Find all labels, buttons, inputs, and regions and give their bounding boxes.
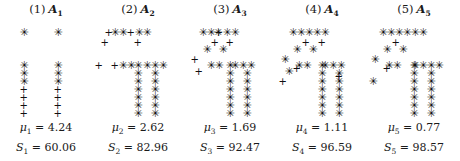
asterisk-marker: ✳ bbox=[383, 45, 390, 54]
asterisk-marker: ✳ bbox=[371, 55, 378, 64]
mu-stat-value: 1.69 bbox=[232, 121, 257, 134]
matrix-symbol: A bbox=[417, 2, 426, 16]
asterisk-marker: ✳ bbox=[20, 28, 27, 37]
mu-stat-value: 0.77 bbox=[416, 121, 441, 134]
asterisk-marker: ✳ bbox=[318, 109, 325, 118]
asterisk-marker: ✳ bbox=[321, 61, 328, 70]
asterisk-marker: ✳ bbox=[369, 77, 376, 86]
plus-marker: + bbox=[111, 61, 118, 70]
mu-stat: μ5 = 0.77 bbox=[368, 120, 460, 140]
s-stat-equals: = bbox=[120, 141, 136, 154]
plus-marker: + bbox=[226, 38, 233, 47]
plus-marker: + bbox=[302, 38, 309, 47]
s-stat-equals: = bbox=[28, 141, 44, 154]
asterisk-marker: ✳ bbox=[223, 28, 230, 37]
asterisk-marker: ✳ bbox=[243, 109, 250, 118]
mu-stat-equals: = bbox=[400, 121, 416, 134]
plus-marker: + bbox=[127, 28, 134, 37]
panel-matrix-label: A4 bbox=[325, 2, 339, 16]
panel-4: (4)A4✳✳✳✳✳✳✳✳✳✳✳✳✳✳✳✳✳✳✳✳✳✳✳✳✳✳✳+++++μ4 … bbox=[276, 0, 368, 161]
asterisk-marker: ✳ bbox=[134, 109, 141, 118]
asterisk-marker: ✳ bbox=[231, 61, 238, 70]
plus-marker: + bbox=[134, 38, 141, 47]
asterisk-marker: ✳ bbox=[293, 45, 300, 54]
mu-stat-value: 4.24 bbox=[48, 121, 73, 134]
asterisk-marker: ✳ bbox=[207, 28, 214, 37]
matrix-subscript: 1 bbox=[58, 9, 63, 18]
panel-index-label: (1) bbox=[29, 2, 45, 16]
scatter-plot-4: ✳✳✳✳✳✳✳✳✳✳✳✳✳✳✳✳✳✳✳✳✳✳✳✳✳✳✳+++++ bbox=[276, 26, 368, 116]
s-stat-value: 82.96 bbox=[137, 141, 169, 154]
asterisk-marker: ✳ bbox=[199, 28, 206, 37]
s-stat: S5 = 98.57 bbox=[368, 140, 460, 160]
s-stat-equals: = bbox=[304, 141, 320, 154]
panel-title-5: (5)A5 bbox=[368, 2, 460, 21]
s-stat: S3 = 92.47 bbox=[184, 140, 276, 160]
panel-stats-2: μ2 = 2.62S2 = 82.96 bbox=[92, 120, 184, 160]
asterisk-marker: ✳ bbox=[435, 61, 442, 70]
asterisk-marker: ✳ bbox=[54, 28, 61, 37]
panel-3: (3)A3✳✳✳✳✳✳✳✳✳✳✳✳✳✳✳✳✳✳✳✳✳✳✳✳✳+++++μ3 = … bbox=[184, 0, 276, 161]
s-stat-symbol: S bbox=[200, 141, 208, 154]
asterisk-marker: ✳ bbox=[387, 28, 394, 37]
s-stat: S1 = 60.06 bbox=[0, 140, 92, 160]
mu-stat: μ3 = 1.69 bbox=[184, 120, 276, 140]
scatter-plot-5: ✳✳✳✳✳✳✳✳✳✳✳✳✳✳✳✳✳✳✳✳✳✳✳✳✳✳✳✳✳++ bbox=[368, 26, 460, 116]
asterisk-marker: ✳ bbox=[410, 109, 417, 118]
panel-stats-5: μ5 = 0.77S5 = 98.57 bbox=[368, 120, 460, 160]
asterisk-marker: ✳ bbox=[321, 28, 328, 37]
matrix-symbol: A bbox=[49, 2, 58, 16]
panel-matrix-label: A1 bbox=[49, 2, 63, 16]
asterisk-marker: ✳ bbox=[379, 28, 386, 37]
panel-index-label: (2) bbox=[121, 2, 137, 16]
s-stat-value: 92.47 bbox=[229, 141, 261, 154]
asterisk-marker: ✳ bbox=[226, 109, 233, 118]
asterisk-marker: ✳ bbox=[135, 28, 142, 37]
plus-marker: + bbox=[20, 109, 27, 118]
panel-stats-1: μ1 = 4.24S1 = 60.06 bbox=[0, 120, 92, 160]
panel-matrix-label: A5 bbox=[417, 2, 431, 16]
mu-stat-equals: = bbox=[124, 121, 140, 134]
panel-index-label: (3) bbox=[213, 2, 229, 16]
panel-title-1: (1)A1 bbox=[0, 2, 92, 21]
asterisk-marker: ✳ bbox=[419, 28, 426, 37]
plus-marker: + bbox=[105, 28, 112, 37]
plus-marker: + bbox=[101, 38, 108, 47]
plus-marker: + bbox=[211, 38, 218, 47]
scatter-plot-1: ✳✳✳✳✳✳✳✳++++++++ bbox=[0, 26, 92, 116]
mu-stat: μ4 = 1.11 bbox=[276, 120, 368, 140]
mu-stat-symbol: μ bbox=[112, 121, 119, 134]
asterisk-marker: ✳ bbox=[231, 28, 238, 37]
asterisk-marker: ✳ bbox=[219, 45, 226, 54]
plus-marker: + bbox=[318, 38, 325, 47]
plus-marker: + bbox=[195, 67, 202, 76]
mu-stat-equals: = bbox=[32, 121, 48, 134]
mu-stat-value: 1.11 bbox=[324, 121, 349, 134]
matrix-subscript: 4 bbox=[334, 9, 339, 18]
matrix-subscript: 3 bbox=[242, 9, 247, 18]
asterisk-marker: ✳ bbox=[119, 61, 126, 70]
mu-stat: μ2 = 2.62 bbox=[92, 120, 184, 140]
mu-stat-symbol: μ bbox=[204, 121, 211, 134]
asterisk-marker: ✳ bbox=[151, 109, 158, 118]
plus-marker: + bbox=[191, 55, 198, 64]
s-stat-symbol: S bbox=[384, 141, 392, 154]
asterisk-marker: ✳ bbox=[303, 61, 310, 70]
panel-title-4: (4)A4 bbox=[276, 2, 368, 21]
mu-stat-equals: = bbox=[308, 121, 324, 134]
asterisk-marker: ✳ bbox=[215, 61, 222, 70]
plus-marker: + bbox=[54, 109, 61, 118]
plus-marker: + bbox=[383, 64, 390, 73]
asterisk-marker: ✳ bbox=[207, 61, 214, 70]
panel-index-label: (5) bbox=[397, 2, 413, 16]
s-stat: S2 = 82.96 bbox=[92, 140, 184, 160]
asterisk-marker: ✳ bbox=[127, 61, 134, 70]
mu-stat-symbol: μ bbox=[20, 121, 27, 134]
asterisk-marker: ✳ bbox=[297, 28, 304, 37]
panel-stats-4: μ4 = 1.11S4 = 96.59 bbox=[276, 120, 368, 160]
asterisk-marker: ✳ bbox=[395, 28, 402, 37]
asterisk-marker: ✳ bbox=[411, 61, 418, 70]
panel-2: (2)A2✳✳✳✳✳✳✳✳✳✳✳✳✳✳✳✳✳✳✳✳✳✳++++++μ2 = 2.… bbox=[92, 0, 184, 161]
panel-5: (5)A5✳✳✳✳✳✳✳✳✳✳✳✳✳✳✳✳✳✳✳✳✳✳✳✳✳✳✳✳✳++μ5 =… bbox=[368, 0, 460, 161]
panel-title-2: (2)A2 bbox=[92, 2, 184, 21]
